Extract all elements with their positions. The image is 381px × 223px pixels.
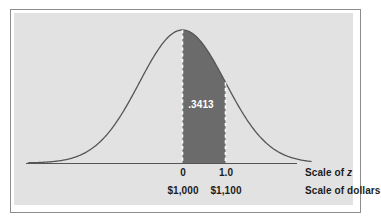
z-tick-label-0: 0 [180, 167, 186, 178]
scale-of-z-caption: Scale of z [305, 167, 352, 178]
dollar-tick-label-1100: $1,100 [210, 185, 241, 196]
shaded-area-value-label: .3413 [188, 99, 214, 110]
scale-of-dollars-caption: Scale of dollars [305, 185, 381, 196]
shaded-area-region [183, 30, 226, 163]
scale-of-z-prefix: Scale of [305, 167, 347, 178]
scale-of-z-symbol: z [347, 167, 352, 178]
normal-curve-line [28, 30, 312, 163]
dollar-tick-label-1000: $1,000 [167, 185, 198, 196]
z-tick-label-1: 1.0 [219, 167, 233, 178]
